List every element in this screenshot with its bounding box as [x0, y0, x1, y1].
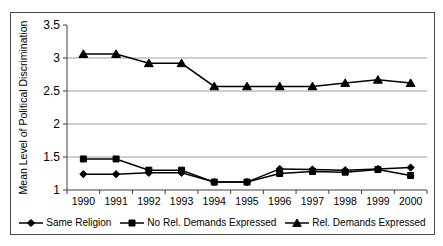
- legend-label-rel-demands: Rel. Demands Expressed: [312, 217, 425, 228]
- legend-label-no-rel-demands: No Rel. Demands Expressed: [147, 217, 276, 228]
- x-tick-label: 1994: [203, 195, 227, 207]
- y-tick-label: 1.5: [43, 150, 60, 164]
- y-tick-label: 3.5: [43, 18, 60, 32]
- diamond-data-point: [80, 171, 87, 178]
- x-tick-label: 1991: [104, 195, 128, 207]
- square-data-point: [113, 156, 119, 162]
- x-tick-label: 1993: [170, 195, 194, 207]
- square-data-point: [211, 179, 217, 185]
- x-tick-label: 1997: [301, 195, 325, 207]
- plot-area: 11.522.533.51990199119921993199419951996…: [11, 13, 436, 236]
- legend-item-rel-demands: Rel. Demands Expressed: [285, 217, 425, 228]
- x-tick-label: 2000: [399, 195, 423, 207]
- square-data-point: [179, 167, 185, 173]
- square-data-point: [80, 156, 86, 162]
- chart-frame: Mean Level of Political Discrimination 1…: [10, 12, 435, 235]
- y-tick-label: 2.5: [43, 84, 60, 98]
- square-data-point: [408, 172, 414, 178]
- x-tick-label: 1996: [268, 195, 292, 207]
- triangle-marker-icon: [285, 218, 309, 228]
- legend-label-same-religion: Same Religion: [46, 217, 111, 228]
- square-marker-icon: [120, 218, 144, 228]
- diamond-data-point: [112, 171, 119, 178]
- legend-item-no-rel-demands: No Rel. Demands Expressed: [120, 217, 276, 228]
- diamond-data-point: [407, 164, 414, 171]
- y-tick-label: 2: [53, 117, 60, 131]
- legend: Same Religion No Rel. Demands Expressed …: [11, 217, 434, 228]
- square-data-point: [277, 171, 283, 177]
- square-data-point: [146, 167, 152, 173]
- legend-item-same-religion: Same Religion: [19, 217, 111, 228]
- chart: Mean Level of Political Discrimination 1…: [0, 0, 443, 246]
- square-data-point: [342, 169, 348, 175]
- square-data-point: [375, 167, 381, 173]
- x-tick-label: 1990: [72, 195, 96, 207]
- y-tick-label: 1: [53, 183, 60, 197]
- diamond-marker-icon: [19, 218, 43, 228]
- x-tick-label: 1992: [137, 195, 161, 207]
- x-tick-label: 1999: [366, 195, 390, 207]
- square-data-point: [244, 179, 250, 185]
- x-tick-label: 1995: [235, 195, 259, 207]
- x-tick-label: 1998: [334, 195, 358, 207]
- y-tick-label: 3: [53, 51, 60, 65]
- square-data-point: [309, 169, 315, 175]
